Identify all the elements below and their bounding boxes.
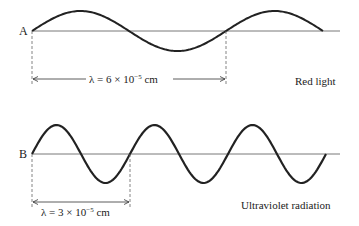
wavelength-b-text: λ = 3 × 10 — [41, 206, 86, 218]
wavelength-label-b: λ = 3 × 10−5 cm — [41, 207, 110, 218]
wavelength-b-unit: cm — [94, 206, 110, 218]
wavelength-a-exponent: −5 — [134, 73, 141, 81]
panel-a-letter: A — [19, 25, 28, 37]
wavelength-b-exponent: −5 — [86, 206, 93, 214]
wavelength-a-unit: cm — [142, 73, 158, 85]
caption-red-light: Red light — [295, 76, 336, 87]
wave-diagram — [0, 0, 359, 226]
panel-b-letter: B — [19, 148, 27, 160]
panel-b — [32, 125, 340, 207]
caption-ultraviolet: Ultraviolet radiation — [241, 200, 331, 211]
wavelength-a-text: λ = 6 × 10 — [89, 73, 134, 85]
wavelength-label-a: λ = 6 × 10−5 cm — [89, 74, 158, 85]
panel-a — [32, 11, 340, 85]
